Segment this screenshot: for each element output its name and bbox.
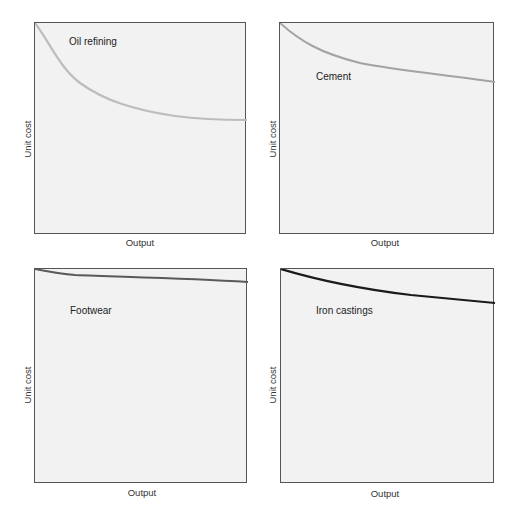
- ylabel-iron-castings: Unit cost: [267, 354, 278, 404]
- plot-area-oil-refining: [34, 22, 246, 234]
- plot-area-cement: [279, 22, 494, 234]
- plot-area-iron-castings: [280, 268, 494, 483]
- ylabel-oil-refining: Unit cost: [22, 108, 33, 158]
- xlabel-iron-castings: Output: [355, 488, 415, 499]
- oil-refining-curve: [35, 23, 247, 235]
- title-oil-refining: Oil refining: [69, 36, 117, 47]
- xlabel-cement: Output: [355, 237, 415, 248]
- title-cement: Cement: [316, 71, 351, 82]
- xlabel-oil-refining: Output: [110, 237, 170, 248]
- footwear-curve: [35, 269, 248, 484]
- ylabel-cement: Unit cost: [267, 108, 278, 158]
- title-footwear: Footwear: [70, 305, 112, 316]
- cement-curve: [280, 23, 495, 235]
- title-iron-castings: Iron castings: [316, 305, 373, 316]
- xlabel-footwear: Output: [112, 487, 172, 498]
- ylabel-footwear: Unit cost: [22, 354, 33, 404]
- iron-castings-curve: [281, 269, 495, 484]
- plot-area-footwear: [34, 268, 247, 483]
